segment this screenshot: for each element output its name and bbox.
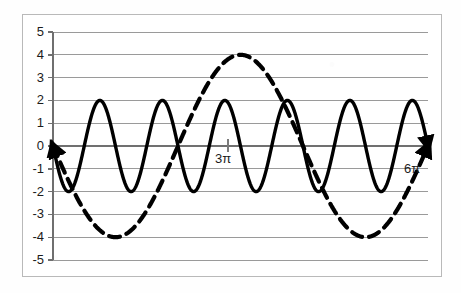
y-axis-tick-label: -3 [22, 207, 44, 220]
y-axis-tick-label: -5 [22, 253, 44, 266]
y-axis-tick-label: -4 [22, 230, 44, 243]
y-axis-tick-label: 5 [22, 25, 44, 38]
plot-canvas [0, 0, 461, 293]
x-tick-label-3pi: 3π [215, 152, 231, 165]
y-axis-tick-label: -1 [22, 162, 44, 175]
y-axis-tick-label: -2 [22, 185, 44, 198]
y-axis-tick-label: 0 [22, 139, 44, 152]
x-tick-label-6pi: 6π [404, 162, 420, 175]
y-axis-tick-label: 1 [22, 116, 44, 129]
y-axis-tick-label: 2 [22, 93, 44, 106]
y-axis-tick-label: 4 [22, 48, 44, 61]
y-axis-tick-label: 3 [22, 71, 44, 84]
figure-container: 543210-1-2-3-4-5 3π 6π [0, 0, 461, 293]
